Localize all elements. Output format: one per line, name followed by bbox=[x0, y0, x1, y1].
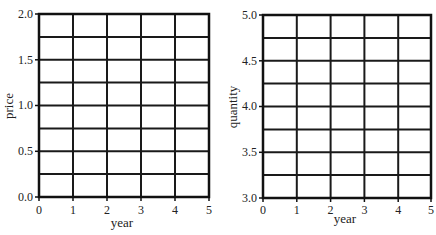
quantity-chart-plot: 5.0 4.5 4.0 3.5 3.0 0 1 2 3 4 5 year qua… bbox=[218, 0, 436, 235]
quantity-xtick-label: 0 bbox=[260, 203, 266, 217]
quantity-y-axis-label: quantity bbox=[225, 85, 240, 128]
price-y-axis-label: price bbox=[1, 93, 16, 119]
price-ytick-label: 2.0 bbox=[18, 7, 33, 21]
quantity-ytick-label: 3.5 bbox=[242, 145, 257, 159]
price-chart-plot: 2.0 1.5 1.0 0.5 0.0 0 1 2 3 4 5 year pri… bbox=[0, 0, 218, 235]
price-ytick-label: 0.0 bbox=[18, 190, 33, 204]
price-xtick-label: 5 bbox=[206, 203, 212, 217]
price-xtick-label: 3 bbox=[138, 203, 144, 217]
price-ytick-label: 1.0 bbox=[18, 98, 33, 112]
quantity-ytick-label: 4.0 bbox=[242, 99, 257, 113]
quantity-grid-horizontal bbox=[263, 38, 431, 175]
price-x-axis-label: year bbox=[111, 215, 134, 230]
quantity-ytick-label: 5.0 bbox=[242, 8, 257, 22]
quantity-ytick-label: 4.5 bbox=[242, 54, 257, 68]
quantity-xtick-label: 1 bbox=[294, 203, 300, 217]
quantity-xtick-label: 5 bbox=[428, 203, 434, 217]
quantity-ytick-label: 3.0 bbox=[242, 191, 257, 205]
quantity-x-axis-label: year bbox=[334, 211, 357, 226]
quantity-xtick-label: 3 bbox=[361, 203, 367, 217]
price-xtick-label: 2 bbox=[104, 203, 110, 217]
price-xtick-label: 1 bbox=[70, 203, 76, 217]
price-xtick-label: 0 bbox=[36, 203, 42, 217]
price-grid-horizontal bbox=[39, 37, 209, 174]
quantity-xtick-label: 2 bbox=[328, 203, 334, 217]
price-ytick-label: 0.5 bbox=[18, 144, 33, 158]
price-xtick-label: 4 bbox=[172, 203, 178, 217]
price-ytick-label: 1.5 bbox=[18, 53, 33, 67]
quantity-chart: 5.0 4.5 4.0 3.5 3.0 0 1 2 3 4 5 year qua… bbox=[218, 0, 436, 235]
quantity-xtick-label: 4 bbox=[395, 203, 401, 217]
price-chart: 2.0 1.5 1.0 0.5 0.0 0 1 2 3 4 5 year pri… bbox=[0, 0, 218, 235]
